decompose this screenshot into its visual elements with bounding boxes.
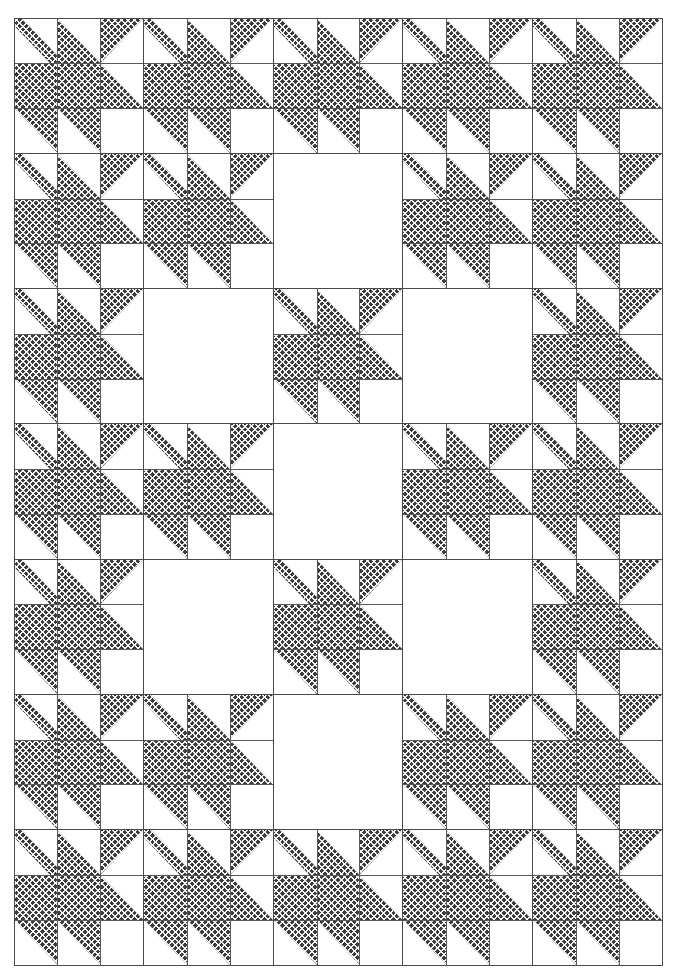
crosshatch-fill [15, 334, 58, 379]
crosshatch-fill [15, 19, 58, 64]
crosshatch-fill [187, 243, 230, 288]
quilt-pieced-block [273, 829, 404, 965]
crosshatch-fill [317, 19, 360, 64]
quilt-patch-diag [144, 830, 187, 875]
crosshatch-fill [100, 560, 143, 605]
crosshatch-fill [489, 875, 532, 920]
quilt-patch-diag [533, 695, 576, 740]
crosshatch-fill [187, 695, 230, 740]
crosshatch-fill [619, 63, 662, 108]
quilt-pieced-block [402, 829, 533, 965]
quilt-patch-ur [187, 514, 230, 559]
quilt-patch-diag [144, 695, 187, 740]
quilt-patch-ur [15, 379, 58, 424]
crosshatch-fill [317, 649, 360, 694]
crosshatch-fill [15, 740, 58, 785]
quilt-patch-ur [15, 514, 58, 559]
quilt-pieced-block [402, 423, 533, 559]
quilt-patch-ur [446, 784, 489, 829]
quilt-pieced-block [273, 559, 404, 695]
quilt-patch-full [274, 63, 317, 108]
quilt-patch-full [57, 875, 100, 920]
crosshatch-fill [317, 63, 360, 108]
quilt-patch-full [317, 334, 360, 379]
quilt-patch-full [187, 199, 230, 244]
quilt-patch-full [533, 199, 576, 244]
crosshatch-fill [533, 560, 576, 605]
quilt-patch-ur [533, 243, 576, 288]
crosshatch-fill [403, 424, 446, 469]
crosshatch-fill [144, 199, 187, 244]
crosshatch-fill [619, 875, 662, 920]
quilt-patch-full [446, 875, 489, 920]
quilt-patch-none [230, 784, 273, 829]
crosshatch-fill [489, 830, 532, 875]
quilt-patch-diag [533, 830, 576, 875]
quilt-patch-ul [100, 19, 143, 64]
crosshatch-fill [533, 830, 576, 875]
crosshatch-fill [15, 604, 58, 649]
crosshatch-fill [576, 63, 619, 108]
quilt-patch-ul [619, 19, 662, 64]
crosshatch-fill [144, 108, 187, 153]
quilt-patch-ur [57, 920, 100, 965]
quilt-patch-ur [187, 108, 230, 153]
crosshatch-fill [187, 63, 230, 108]
quilt-patch-none [100, 649, 143, 694]
crosshatch-fill [57, 154, 100, 199]
quilt-patch-ur [533, 784, 576, 829]
quilt-patch-diag [274, 19, 317, 64]
quilt-patch-ul [100, 560, 143, 605]
quilt-patch-full [144, 740, 187, 785]
crosshatch-fill [446, 154, 489, 199]
quilt-pieced-block [402, 153, 533, 289]
quilt-patch-none [359, 649, 402, 694]
crosshatch-fill [15, 649, 58, 694]
quilt-patch-ul [100, 695, 143, 740]
crosshatch-fill [403, 154, 446, 199]
quilt-patch-full [57, 334, 100, 379]
quilt-patch-full [144, 199, 187, 244]
crosshatch-fill [533, 199, 576, 244]
crosshatch-fill [274, 920, 317, 965]
crosshatch-fill [230, 830, 273, 875]
quilt-patch-diag [274, 560, 317, 605]
quilt-patch-full [533, 604, 576, 649]
quilt-patch-ll [100, 63, 143, 108]
quilt-patch-full [446, 199, 489, 244]
crosshatch-fill [274, 560, 317, 605]
crosshatch-fill [100, 289, 143, 334]
crosshatch-fill [446, 108, 489, 153]
quilt-patch-ur [15, 649, 58, 694]
crosshatch-fill [403, 469, 446, 514]
quilt-patch-full [144, 469, 187, 514]
quilt-patch-ur [144, 920, 187, 965]
crosshatch-fill [274, 379, 317, 424]
crosshatch-fill [274, 63, 317, 108]
crosshatch-fill [57, 199, 100, 244]
quilt-patch-none [359, 920, 402, 965]
crosshatch-fill [15, 875, 58, 920]
quilt-patch-full [57, 63, 100, 108]
quilt-patch-ur [57, 379, 100, 424]
crosshatch-fill [274, 289, 317, 334]
quilt-patch-none [619, 108, 662, 153]
quilt-patch-ur [446, 108, 489, 153]
crosshatch-fill [57, 649, 100, 694]
quilt-patch-ll [230, 199, 273, 244]
quilt-patch-ur [274, 379, 317, 424]
crosshatch-fill [57, 108, 100, 153]
quilt-patch-ul [359, 830, 402, 875]
quilt-patch-ur [317, 649, 360, 694]
quilt-patch-ll [317, 830, 360, 875]
crosshatch-fill [100, 875, 143, 920]
quilt-patch-full [274, 875, 317, 920]
crosshatch-fill [576, 875, 619, 920]
quilt-patch-ll [317, 19, 360, 64]
quilt-patch-full [576, 63, 619, 108]
crosshatch-fill [576, 424, 619, 469]
quilt-patch-full [187, 875, 230, 920]
quilt-page [0, 0, 683, 968]
quilt-patch-full [15, 740, 58, 785]
crosshatch-fill [533, 604, 576, 649]
